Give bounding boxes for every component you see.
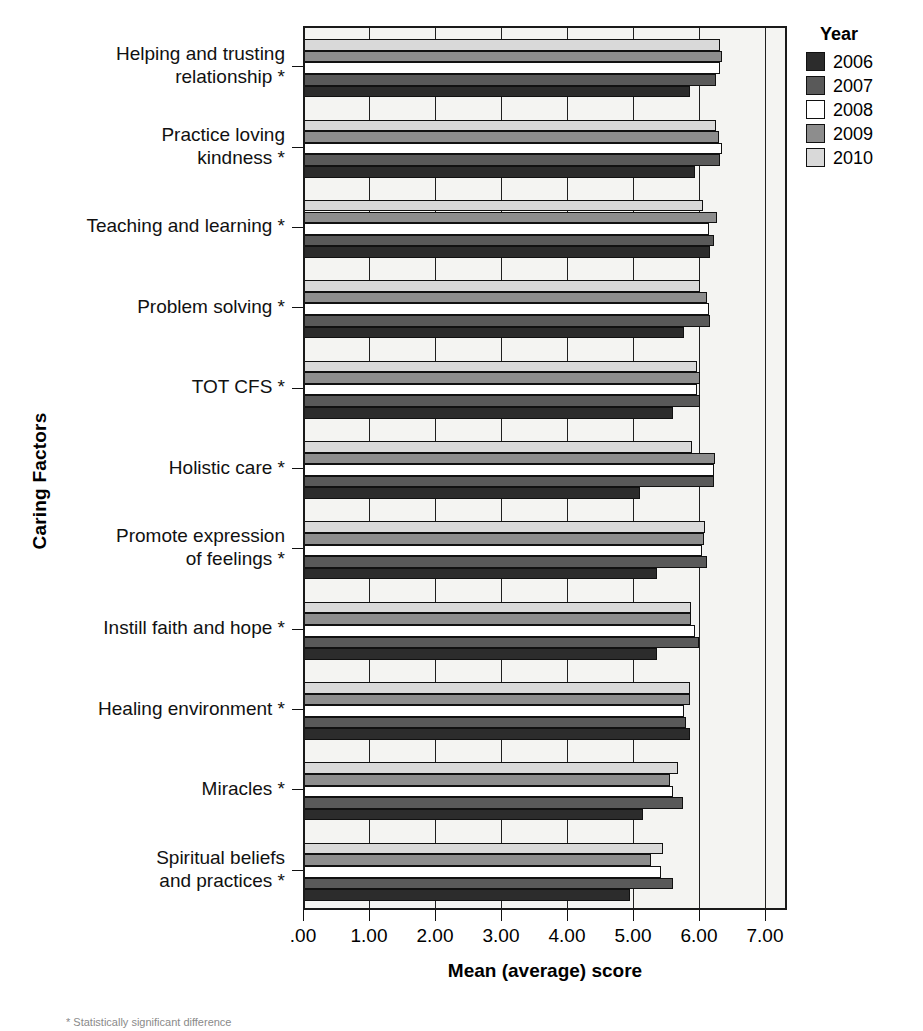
bar-2009 [305, 533, 704, 545]
bar-2007 [305, 797, 683, 809]
bar-group [305, 671, 785, 751]
x-tick [303, 910, 304, 921]
x-tick [633, 910, 634, 921]
legend-items: 20062007200820092010 [806, 52, 916, 167]
x-tick [435, 910, 436, 921]
bar-2007 [305, 235, 714, 247]
bar-group [305, 430, 785, 510]
bar-chart: Caring Factors Helping and trusting rela… [0, 0, 923, 1031]
bar-2010 [305, 762, 678, 774]
bar-2008 [305, 705, 684, 717]
bar-2010 [305, 682, 690, 694]
y-tick [292, 227, 303, 228]
category-label: Problem solving * [40, 295, 285, 318]
legend-item-2009[interactable]: 2009 [806, 124, 916, 143]
bar-2010 [305, 361, 697, 373]
legend: Year 20062007200820092010 [806, 24, 916, 172]
bar-2006 [305, 246, 710, 258]
bar-group [305, 269, 785, 349]
bar-2009 [305, 854, 651, 866]
category-label: Miracles * [40, 777, 285, 800]
bar-group [305, 108, 785, 188]
x-tick-label: 3.00 [466, 925, 536, 947]
x-tick-label: 7.00 [730, 925, 800, 947]
bar-group [305, 28, 785, 108]
bar-2010 [305, 39, 720, 51]
x-axis-title: Mean (average) score [303, 960, 787, 982]
bar-2007 [305, 878, 673, 890]
legend-item-label: 2006 [833, 53, 873, 71]
bar-2006 [305, 809, 643, 821]
legend-swatch-icon [806, 100, 825, 119]
bar-2007 [305, 637, 699, 649]
bar-2008 [305, 625, 695, 637]
bar-2006 [305, 889, 630, 901]
category-label: Spiritual beliefs and practices * [40, 846, 285, 892]
legend-item-2007[interactable]: 2007 [806, 76, 916, 95]
bar-2008 [305, 464, 714, 476]
bar-2006 [305, 407, 673, 419]
bar-2009 [305, 51, 722, 63]
x-tick [567, 910, 568, 921]
category-label: Promote expression of feelings * [40, 524, 285, 570]
legend-swatch-icon [806, 76, 825, 95]
legend-swatch-icon [806, 52, 825, 71]
bar-group [305, 751, 785, 831]
bar-2009 [305, 212, 717, 224]
bar-2008 [305, 545, 702, 557]
bar-2009 [305, 613, 691, 625]
category-label: Instill faith and hope * [40, 616, 285, 639]
bar-2010 [305, 441, 692, 453]
y-tick [292, 388, 303, 389]
y-tick [292, 307, 303, 308]
footnote: * Statistically significant difference [66, 1016, 232, 1031]
bar-2010 [305, 200, 703, 212]
bar-group [305, 832, 785, 910]
bar-2010 [305, 843, 663, 855]
bar-2007 [305, 395, 700, 407]
bar-2007 [305, 476, 714, 488]
category-label: Teaching and learning * [40, 214, 285, 237]
y-tick [292, 709, 303, 710]
bar-2010 [305, 120, 716, 132]
bar-2009 [305, 694, 690, 706]
legend-item-2008[interactable]: 2008 [806, 100, 916, 119]
bar-2008 [305, 303, 709, 315]
y-tick [292, 870, 303, 871]
y-tick [292, 66, 303, 67]
y-tick [292, 147, 303, 148]
bar-2006 [305, 327, 684, 339]
x-tick [765, 910, 766, 921]
bar-group [305, 349, 785, 429]
bar-2007 [305, 74, 716, 86]
legend-item-2010[interactable]: 2010 [806, 148, 916, 167]
bar-2008 [305, 384, 697, 396]
legend-swatch-icon [806, 148, 825, 167]
category-label: Helping and trusting relationship * [40, 42, 285, 88]
x-tick-label: 1.00 [334, 925, 404, 947]
y-tick [292, 629, 303, 630]
plot-area [303, 26, 787, 910]
bar-2009 [305, 453, 715, 465]
category-label: Healing environment * [40, 697, 285, 720]
bar-2006 [305, 166, 695, 178]
bar-2010 [305, 280, 700, 292]
legend-item-2006[interactable]: 2006 [806, 52, 916, 71]
bar-2007 [305, 154, 720, 166]
x-tick-label: 2.00 [400, 925, 470, 947]
bar-2008 [305, 62, 720, 74]
legend-item-label: 2008 [833, 101, 873, 119]
bar-2006 [305, 487, 640, 499]
y-tick [292, 468, 303, 469]
x-tick [699, 910, 700, 921]
bar-2008 [305, 143, 722, 155]
y-tick [292, 548, 303, 549]
bar-2006 [305, 728, 690, 740]
category-label: TOT CFS * [40, 375, 285, 398]
x-tick-label: 4.00 [532, 925, 602, 947]
bar-group [305, 189, 785, 269]
bar-2008 [305, 223, 709, 235]
legend-item-label: 2009 [833, 125, 873, 143]
bar-group [305, 510, 785, 590]
bar-2008 [305, 786, 673, 798]
